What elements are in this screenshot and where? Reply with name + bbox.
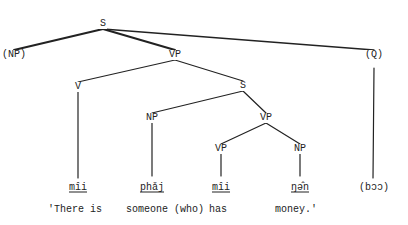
tree-edges bbox=[0, 0, 408, 225]
tree-edge bbox=[103, 29, 374, 50]
node-VP-embedded: VP bbox=[259, 113, 273, 123]
leaf-boo-question: (bɔɔ) bbox=[359, 182, 389, 193]
node-Q-optional: (Q) bbox=[364, 50, 384, 60]
tree-edge bbox=[78, 60, 175, 82]
node-NP-subject: NP bbox=[145, 113, 159, 123]
node-VP-inner: VP bbox=[214, 144, 228, 154]
gloss-there-is: 'There is bbox=[48, 204, 102, 215]
node-NP-optional: (NP) bbox=[1, 50, 27, 60]
gloss-money: money.' bbox=[275, 204, 317, 215]
tree-edge bbox=[152, 91, 243, 113]
node-S-root: S bbox=[99, 19, 107, 29]
node-VP-main: VP bbox=[168, 50, 182, 60]
tree-edge bbox=[266, 123, 300, 144]
tree-edge bbox=[221, 123, 266, 144]
node-V: V bbox=[74, 82, 82, 92]
gloss-has: has bbox=[209, 204, 227, 215]
leaf-phaj: phǎj bbox=[140, 182, 164, 193]
node-S-embedded: S bbox=[239, 81, 247, 91]
leaf-mii-exist: mîi bbox=[69, 182, 87, 193]
node-NP-object: NP bbox=[293, 144, 307, 154]
tree-edge bbox=[243, 91, 266, 113]
gloss-someone-who: someone (who) bbox=[126, 204, 204, 215]
tree-edge bbox=[175, 60, 243, 81]
tree-edge bbox=[373, 68, 374, 178]
tree-edge bbox=[14, 29, 103, 50]
leaf-ngen: ŋə̂n bbox=[291, 182, 309, 193]
leaf-mii-have: mîi bbox=[212, 182, 230, 193]
